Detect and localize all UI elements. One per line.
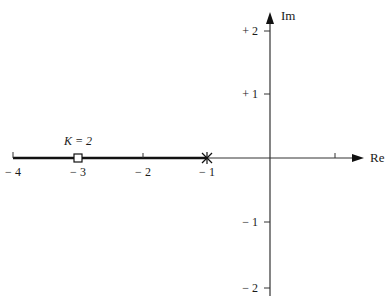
closed-loop-pole-square-icon	[74, 154, 82, 162]
tick-label-re-minus2: − 2	[135, 165, 151, 179]
real-axis-arrow-icon	[352, 154, 364, 162]
tick-label-im-minus2: − 2	[242, 281, 258, 295]
tick-label-re-minus1: − 1	[199, 165, 215, 179]
real-axis-label: Re	[370, 150, 385, 165]
imag-axis-arrow-icon	[266, 12, 274, 24]
tick-label-im-plus1: + 1	[242, 87, 258, 101]
tick-label-im-minus1: − 1	[242, 215, 258, 229]
tick-label-re-minus4: − 4	[5, 165, 21, 179]
tick-label-re-minus3: − 3	[70, 165, 86, 179]
imag-axis-label: Im	[281, 8, 295, 23]
root-locus-plot: Im Re − 4 − 3 − 2 − 1 + 2 + 1 − 1 − 2 K …	[0, 0, 388, 301]
tick-label-im-plus2: + 2	[242, 24, 258, 38]
gain-label: K = 2	[63, 134, 92, 148]
